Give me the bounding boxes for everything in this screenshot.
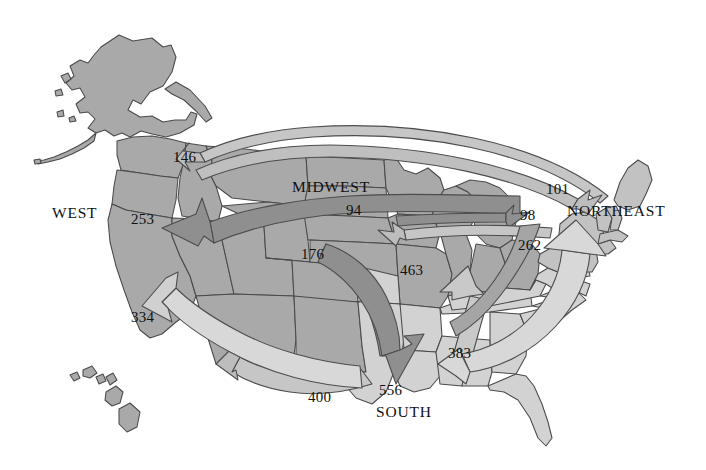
state-ar [400,304,442,352]
flow-value-south-to-west-400: 400 [308,390,331,405]
flow-value-west-to-midwest: 176 [301,247,324,262]
flow-value-west-to-northeast: 101 [546,182,569,197]
flow-value-south-to-midwest: 463 [400,263,423,278]
flow-value-midwest-to-west: 253 [131,212,154,227]
flow-value-midwest-to-northeast: 98 [520,208,535,223]
state-hawaii [70,366,140,432]
us-map-svg: .st{stroke:#4a4a4a;stroke-width:1.05;str… [0,0,706,470]
state-ne [304,214,396,244]
migration-flow-map: .st{stroke:#4a4a4a;stroke-width:1.05;str… [0,0,706,470]
region-label-midwest: MIDWEST [292,179,370,195]
flow-value-northeast-to-south: 383 [448,346,471,361]
flow-value-midwest-to-south: 556 [379,383,402,398]
flow-value-northeast-to-west: 146 [173,150,196,165]
flow-value-northeast-to-midwest: 94 [346,203,361,218]
flow-value-south-to-west-334: 334 [131,310,154,325]
region-label-west: WEST [52,205,97,221]
state-fl [488,374,552,446]
region-label-south: SOUTH [376,404,432,420]
flow-value-south-to-northeast: 262 [518,238,541,253]
region-label-northeast: NORTHEAST [567,203,665,219]
